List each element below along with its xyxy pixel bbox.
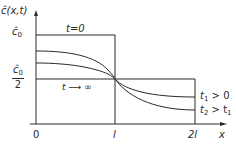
y-axis-label: ĉ(x,t)	[1, 6, 27, 16]
x-tick-2l: 2l	[188, 130, 197, 140]
t2-condition-subscript: 1	[227, 109, 231, 117]
label-t1: t1 > 0	[200, 91, 230, 103]
t1-condition: > 0	[208, 90, 229, 101]
y-tick-half-c0: ĉ0 2	[12, 65, 24, 90]
x-tick-0: 0	[33, 130, 39, 140]
y-axis-arrow-icon	[34, 10, 38, 16]
y-tick-half-numerator: ĉ0	[12, 65, 24, 79]
label-t0: t=0	[66, 24, 85, 34]
label-t2: t2 > t1	[200, 105, 232, 117]
plot-canvas	[0, 0, 236, 149]
half-num-subscript: 0	[19, 69, 23, 77]
x-axis-label: x	[219, 130, 225, 140]
y-tick-c0-subscript: 0	[18, 31, 22, 39]
concentration-diffusion-diagram: ĉ(x,t) ĉ0 ĉ0 2 0 l 2l x t=0 t ⟶ ∞ t1 > 0…	[0, 0, 236, 149]
y-tick-c0: ĉ0	[12, 27, 22, 39]
x-tick-l: l	[113, 130, 116, 140]
label-t-infinity: t ⟶ ∞	[62, 83, 92, 92]
x-axis-arrow-icon	[220, 122, 227, 126]
y-tick-half-denominator: 2	[12, 79, 24, 90]
t2-condition: > t	[208, 104, 227, 115]
